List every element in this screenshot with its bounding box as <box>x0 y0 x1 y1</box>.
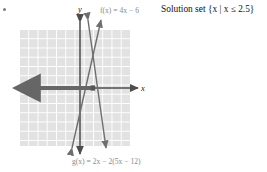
x-axis-label: x <box>141 84 145 93</box>
plot-canvas <box>0 0 267 172</box>
function-label-g: g(x) = 2x − 2(5x − 12) <box>72 158 141 166</box>
solution-ray-endpoint <box>91 85 96 90</box>
function-label-f: f(x) = 4x − 6 <box>100 7 139 15</box>
y-axis-label: y <box>78 5 82 14</box>
solution-set-label: Solution set {x | x ≤ 2.5} <box>161 5 254 14</box>
math-figure: y x f(x) = 4x − 6 g(x) = 2x − 2(5x − 12)… <box>0 0 267 172</box>
